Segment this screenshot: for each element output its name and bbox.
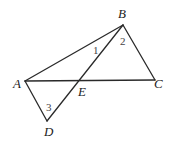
segment-bc (123, 25, 155, 80)
angle-label-3: 3 (46, 101, 52, 113)
angle-label-2: 2 (120, 35, 126, 47)
segment-ac (25, 80, 155, 81)
segment-ad (25, 81, 47, 121)
segment-bd (47, 25, 123, 121)
point-label-b: B (118, 6, 126, 21)
point-label-a: A (12, 76, 21, 91)
geometry-diagram: B C A E D 1 2 3 (0, 0, 170, 148)
point-label-d: D (43, 124, 54, 139)
angle-label-1: 1 (93, 44, 99, 56)
point-label-c: C (154, 76, 163, 91)
point-label-e: E (77, 84, 86, 99)
segment-ab (25, 25, 123, 81)
